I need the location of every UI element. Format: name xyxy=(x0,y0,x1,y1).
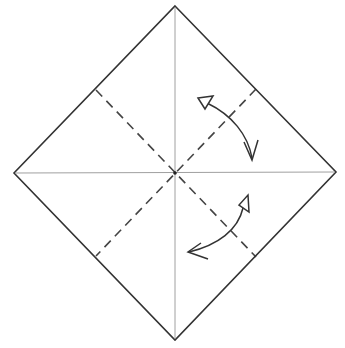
fold-unfold-arrow-lower-right-icon xyxy=(188,195,249,259)
center-point xyxy=(173,171,177,175)
origami-diagram: Origami base: square on point with valle… xyxy=(0,0,345,348)
fold-unfold-arrow-upper-right-icon xyxy=(198,96,258,160)
